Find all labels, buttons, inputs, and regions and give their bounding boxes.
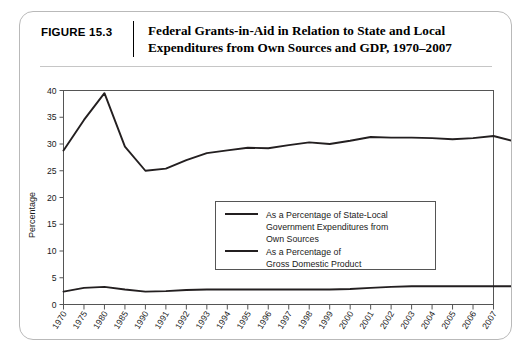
line-chart: Percentage 0510152025303540 197019751980… bbox=[20, 66, 511, 341]
x-tick-label: 1975 bbox=[71, 309, 90, 331]
y-tick-label: 20 bbox=[47, 193, 57, 203]
chart-legend: As a Percentage of State-LocalGovernment… bbox=[216, 202, 436, 270]
x-tick-label: 1970 bbox=[50, 309, 69, 331]
x-tick-label: 1990 bbox=[132, 309, 151, 331]
y-axis-title: Percentage bbox=[27, 192, 37, 238]
x-tick-label: 1997 bbox=[275, 309, 294, 331]
y-tick-label: 15 bbox=[47, 219, 57, 229]
y-axis-title-text: Percentage bbox=[27, 192, 37, 238]
header-divider bbox=[133, 21, 134, 57]
x-tick-label: 1995 bbox=[234, 309, 253, 331]
x-tick-label: 2007 bbox=[480, 309, 499, 331]
figure-title-line-1: Federal Grants-in-Aid in Relation to Sta… bbox=[148, 23, 445, 38]
y-tick-label: 10 bbox=[47, 246, 57, 256]
x-tick-label: 1999 bbox=[316, 309, 335, 331]
y-tick-label: 0 bbox=[52, 300, 57, 310]
legend-label-1-line-3: Own Sources bbox=[266, 234, 319, 244]
legend-label-2-line-2: Gross Domestic Product bbox=[266, 259, 362, 269]
y-tick-label: 30 bbox=[47, 139, 57, 149]
x-tick-label: 2004 bbox=[419, 309, 438, 331]
figure-number-label: FIGURE 15.3 bbox=[41, 26, 112, 38]
legend-label-1-line-2: Government Expenditures from bbox=[266, 222, 388, 232]
x-tick-label: 2006 bbox=[460, 309, 479, 331]
x-tick-label: 1996 bbox=[255, 309, 274, 331]
figure-title: Federal Grants-in-Aid in Relation to Sta… bbox=[148, 23, 498, 56]
y-axis-ticks: 0510152025303540 bbox=[47, 86, 64, 310]
x-tick-label: 1980 bbox=[91, 309, 110, 331]
legend-label-1-line-1: As a Percentage of State-Local bbox=[266, 210, 388, 220]
x-tick-label: 2002 bbox=[378, 309, 397, 331]
figure-header: FIGURE 15.3 Federal Grants-in-Aid in Rel… bbox=[20, 12, 511, 66]
x-axis-ticks: 1970197519801985199019911992199319941995… bbox=[50, 305, 499, 331]
x-tick-label: 1991 bbox=[152, 309, 171, 331]
figure-title-line-2: Expenditures from Own Sources and GDP, 1… bbox=[148, 40, 452, 55]
plot-frame bbox=[64, 91, 494, 305]
figure-card: FIGURE 15.3 Federal Grants-in-Aid in Rel… bbox=[19, 11, 512, 340]
series-line-2 bbox=[64, 286, 512, 292]
x-tick-label: 1998 bbox=[296, 309, 315, 331]
x-tick-label: 2000 bbox=[337, 309, 356, 331]
x-tick-label: 2005 bbox=[439, 309, 458, 331]
y-tick-label: 35 bbox=[47, 112, 57, 122]
y-tick-label: 25 bbox=[47, 166, 57, 176]
x-tick-label: 1993 bbox=[193, 309, 212, 331]
x-tick-label: 1992 bbox=[173, 309, 192, 331]
y-tick-label: 40 bbox=[47, 86, 57, 96]
chart-plot-area: Percentage 0510152025303540 197019751980… bbox=[20, 66, 511, 341]
x-tick-label: 1994 bbox=[214, 309, 233, 331]
x-tick-label: 1985 bbox=[112, 309, 131, 331]
legend-label-2-line-1: As a Percentage of bbox=[266, 247, 341, 257]
x-tick-label: 2001 bbox=[357, 309, 376, 331]
y-tick-label: 5 bbox=[52, 273, 57, 283]
series-line-1 bbox=[64, 93, 512, 171]
x-tick-label: 2003 bbox=[398, 309, 417, 331]
